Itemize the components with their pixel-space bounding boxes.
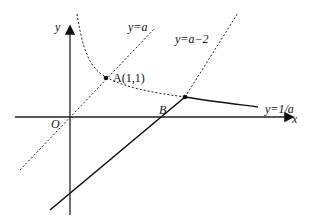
origin-label: O [51, 118, 60, 130]
line-y-eq-a [20, 28, 155, 170]
y-axis-label: y [55, 21, 60, 33]
label-y-eq-1-over-a: y=1/a [265, 103, 294, 115]
label-point-A: A(1,1) [113, 72, 145, 84]
point-A [104, 76, 109, 81]
line-y-eq-a-minus-2 [185, 13, 238, 97]
diagram-canvas [0, 0, 310, 223]
label-point-B: B [159, 104, 166, 116]
curve-y-eq-1-over-a-solid [185, 97, 258, 107]
label-y-eq-a: y=a [128, 21, 147, 33]
label-y-eq-a-minus-2: y=a−2 [175, 33, 209, 45]
point-B [183, 95, 188, 100]
